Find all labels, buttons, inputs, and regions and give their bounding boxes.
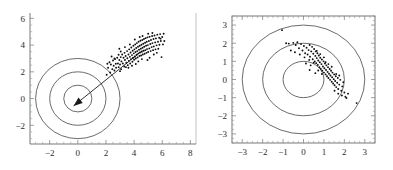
y-tick-label: −2 (15, 121, 25, 131)
data-point (154, 41, 156, 43)
data-point (303, 45, 305, 47)
data-point (146, 41, 148, 43)
data-point (149, 57, 151, 59)
data-point (139, 40, 141, 42)
data-point (314, 55, 316, 57)
data-point (142, 53, 144, 55)
ticks-left (30, 18, 190, 144)
x-tick-label: −2 (258, 147, 268, 157)
panel-right: −3−2−10123−3−2−10123 (217, 16, 375, 157)
data-point (292, 42, 294, 44)
data-point (111, 55, 113, 57)
data-point (147, 33, 149, 35)
data-point (120, 56, 122, 58)
data-point (156, 34, 158, 36)
data-point (316, 52, 318, 54)
data-point (309, 69, 311, 71)
data-point (312, 53, 314, 55)
data-point (151, 35, 153, 37)
data-point (162, 43, 164, 45)
data-point (321, 63, 323, 65)
data-point (294, 51, 296, 53)
data-point (151, 46, 153, 48)
data-point (106, 63, 108, 65)
data-point (123, 66, 125, 68)
data-point (337, 77, 339, 79)
data-point (128, 60, 130, 62)
data-point (110, 64, 112, 66)
data-point (150, 50, 152, 52)
data-point (140, 48, 142, 50)
data-point (300, 43, 302, 45)
y-tick-label: 0 (21, 94, 26, 104)
data-point (325, 69, 327, 71)
x-tick-label: 1 (322, 147, 327, 157)
data-point (142, 47, 144, 49)
data-point (117, 63, 119, 65)
y-tick-label: −2 (217, 111, 227, 121)
data-point (325, 64, 327, 66)
data-point (308, 49, 310, 51)
data-point (321, 73, 323, 75)
data-point (343, 92, 345, 94)
data-point (321, 70, 323, 72)
data-point (137, 46, 139, 48)
data-point (342, 81, 344, 83)
data-point (296, 41, 298, 43)
data-point (325, 61, 327, 63)
data-point (115, 63, 117, 65)
data-point (133, 48, 135, 50)
data-point (316, 57, 318, 59)
data-point (290, 50, 292, 52)
data-point (130, 58, 132, 60)
data-point (148, 40, 150, 42)
data-point (153, 45, 155, 47)
data-point (138, 55, 140, 57)
data-point (309, 56, 311, 58)
data-point (135, 63, 137, 65)
data-point (288, 43, 290, 45)
data-point (298, 47, 300, 49)
data-point (334, 90, 336, 92)
data-point (331, 81, 333, 83)
data-point (119, 64, 121, 66)
data-point (337, 88, 339, 90)
data-point (112, 60, 114, 62)
data-point (120, 51, 122, 53)
data-point (310, 50, 312, 52)
data-point (319, 57, 321, 59)
data-point (144, 49, 146, 51)
data-point (313, 48, 315, 50)
unit-circle (64, 85, 92, 112)
data-point (157, 41, 159, 43)
data-point (138, 49, 140, 51)
data-point (138, 41, 140, 43)
x-tick-label: 0 (301, 147, 306, 157)
data-point (109, 72, 111, 74)
data-point (113, 70, 115, 72)
data-point (318, 66, 320, 68)
data-point (319, 53, 321, 55)
data-point (135, 47, 137, 49)
data-point (139, 51, 141, 53)
ticks-right (232, 16, 375, 143)
data-point (157, 48, 159, 50)
data-point (305, 63, 307, 65)
data-point (119, 70, 121, 72)
data-point (338, 84, 340, 86)
data-point (156, 52, 158, 54)
data-point (304, 52, 306, 54)
data-point (332, 83, 334, 85)
data-point (120, 60, 122, 62)
data-point (141, 39, 143, 41)
data-point (155, 48, 157, 50)
data-point (327, 71, 329, 73)
data-point (163, 33, 165, 35)
data-point (327, 63, 329, 65)
y-tick-label: 2 (21, 67, 26, 77)
data-point (124, 52, 126, 54)
data-point (137, 60, 139, 62)
data-point (129, 63, 131, 65)
data-point (130, 47, 132, 49)
radius-2-circle (50, 72, 106, 125)
